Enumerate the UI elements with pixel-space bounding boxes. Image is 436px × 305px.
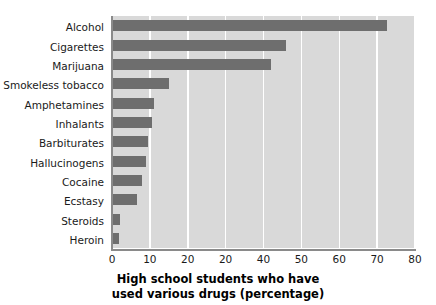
bar	[112, 194, 137, 205]
category-label: Alcohol	[0, 22, 104, 33]
bar	[112, 20, 387, 31]
category-label: Inhalants	[0, 119, 104, 130]
bar-chart-figure: AlcoholCigarettesMarijuanaSmokeless toba…	[0, 0, 436, 305]
x-axis-tick-labels: 01020204050607080	[0, 253, 436, 269]
category-label: Heroin	[0, 235, 104, 246]
category-axis: AlcoholCigarettesMarijuanaSmokeless toba…	[0, 18, 108, 246]
bar	[112, 156, 146, 167]
x-tick-label: 70	[357, 253, 397, 266]
bar	[112, 59, 271, 70]
category-label: Barbiturates	[0, 138, 104, 149]
x-axis-title: High school students who haveused variou…	[0, 272, 436, 301]
bar	[112, 233, 119, 244]
x-tick-label: 80	[395, 253, 435, 266]
bar	[112, 175, 142, 186]
category-label: Cigarettes	[0, 42, 104, 53]
category-label: Marijuana	[0, 61, 104, 72]
bar	[112, 78, 169, 89]
x-tick-label: 50	[281, 253, 321, 266]
x-tick-label: 0	[92, 253, 132, 266]
category-label: Steroids	[0, 216, 104, 227]
x-axis-title-line: used various drugs (percentage)	[0, 287, 436, 302]
x-axis-title-line: High school students who have	[0, 272, 436, 287]
category-label: Ecstasy	[0, 196, 104, 207]
bar	[112, 214, 120, 225]
x-tick-label: 20	[206, 253, 246, 266]
category-label: Smokeless tobacco	[0, 80, 104, 91]
category-label: Amphetamines	[0, 100, 104, 111]
x-tick-label: 40	[244, 253, 284, 266]
bar	[112, 117, 152, 128]
category-label: Cocaine	[0, 177, 104, 188]
category-label: Hallucinogens	[0, 158, 104, 169]
x-axis-line	[111, 249, 416, 251]
x-tick-label: 20	[168, 253, 208, 266]
bar	[112, 136, 148, 147]
x-tick-label: 10	[130, 253, 170, 266]
x-tick-label: 60	[319, 253, 359, 266]
y-axis-line	[111, 16, 113, 250]
plot-area	[112, 16, 415, 248]
bar	[112, 40, 286, 51]
bars-layer	[112, 16, 415, 248]
bar	[112, 98, 154, 109]
